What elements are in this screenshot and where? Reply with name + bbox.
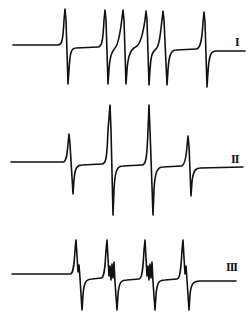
spectrum-I-trace xyxy=(13,9,245,87)
spectrum-II-trace xyxy=(11,105,243,215)
spectrum-label-I: I xyxy=(235,35,239,50)
spectra-figure xyxy=(0,0,252,319)
spectrum-label-II: II xyxy=(231,152,238,167)
spectrum-label-III: III xyxy=(226,260,237,275)
spectrum-III-trace xyxy=(12,240,236,310)
